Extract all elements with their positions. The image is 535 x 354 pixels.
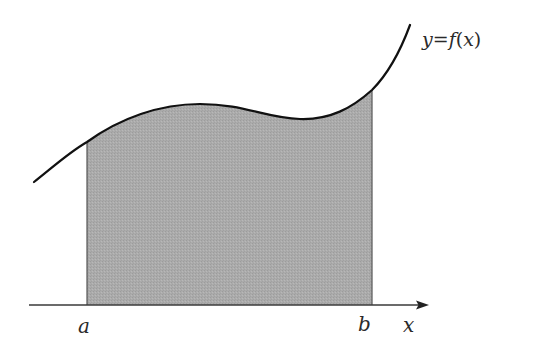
upper-bound-label: b (358, 312, 371, 336)
lower-bound-label: a (78, 314, 90, 338)
x-axis-label: x (403, 313, 414, 337)
integral-diagram: y=f(x) a b x (0, 0, 535, 354)
shaded-area (87, 90, 372, 305)
curve-label: y=f(x) (421, 28, 481, 50)
